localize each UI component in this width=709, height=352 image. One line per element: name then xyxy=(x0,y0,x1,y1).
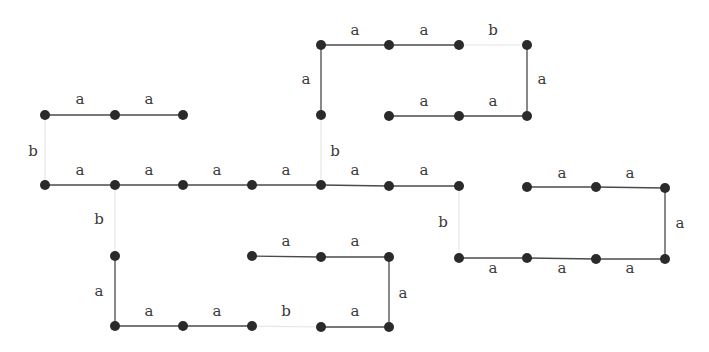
graph-node xyxy=(384,322,394,332)
graph-node xyxy=(110,180,120,190)
graph-node xyxy=(316,40,326,50)
edge-label: a xyxy=(351,302,360,320)
graph-node xyxy=(247,251,257,261)
edge-label: a xyxy=(351,21,360,39)
graph-node xyxy=(316,252,326,262)
graph-node xyxy=(660,254,670,264)
graph-node xyxy=(316,110,326,120)
graph-node xyxy=(454,253,464,263)
graph-node xyxy=(110,251,120,261)
graph-diagram: aaaabaaaabaaaaaabaabbaaaaaaaaaaba xyxy=(0,0,709,352)
graph-node xyxy=(384,252,394,262)
graph-node xyxy=(591,254,601,264)
edge-label: a xyxy=(282,161,291,179)
graph-node xyxy=(247,321,257,331)
edge-label: a xyxy=(213,302,222,320)
edge-label: a xyxy=(489,92,498,110)
graph-node xyxy=(316,322,326,332)
graph-node xyxy=(522,253,532,263)
edge-label: b xyxy=(330,142,340,160)
edge-label: a xyxy=(76,161,85,179)
edge-b xyxy=(252,326,321,327)
graph-node xyxy=(110,110,120,120)
edge-label: a xyxy=(558,164,567,182)
edge-label: a xyxy=(76,90,85,108)
edge-label: a xyxy=(145,161,154,179)
edge-label: a xyxy=(626,164,635,182)
graph-node xyxy=(40,180,50,190)
edge-label: b xyxy=(28,142,38,160)
graph-node xyxy=(316,180,326,190)
edge-label: a xyxy=(420,92,429,110)
graph-node xyxy=(40,110,50,120)
graph-node xyxy=(591,182,601,192)
graph-node xyxy=(522,111,532,121)
edge-label: a xyxy=(351,161,360,179)
edge-label: a xyxy=(489,259,498,277)
edge-a xyxy=(252,256,321,257)
graph-node xyxy=(384,181,394,191)
edge-label: a xyxy=(351,232,360,250)
edge-a xyxy=(596,187,665,188)
edge-label: a xyxy=(399,284,408,302)
edge-label: a xyxy=(676,214,685,232)
edge-label: b xyxy=(94,210,104,228)
edge-label: a xyxy=(213,161,222,179)
graph-node xyxy=(454,111,464,121)
graph-node xyxy=(247,180,257,190)
graph-node xyxy=(178,321,188,331)
edge-label: b xyxy=(488,21,498,39)
graph-svg: aaaabaaaabaaaaaabaabbaaaaaaaaaaba xyxy=(0,0,709,352)
edge-a xyxy=(321,185,389,186)
edge-label: b xyxy=(438,213,448,231)
graph-node xyxy=(454,181,464,191)
graph-node xyxy=(522,182,532,192)
edge-label: a xyxy=(558,259,567,277)
graph-node xyxy=(384,111,394,121)
edge-label: a xyxy=(538,70,547,88)
graph-node xyxy=(522,40,532,50)
graph-node xyxy=(384,40,394,50)
edge-label: a xyxy=(145,90,154,108)
edge-label: a xyxy=(145,302,154,320)
edge-label: a xyxy=(626,259,635,277)
edge-label: a xyxy=(282,232,291,250)
edges-layer xyxy=(45,45,665,327)
graph-node xyxy=(110,321,120,331)
edge-label: a xyxy=(302,70,311,88)
graph-node xyxy=(660,183,670,193)
edge-label: b xyxy=(281,302,291,320)
edge-label: a xyxy=(420,21,429,39)
labels-layer: aaaabaaaabaaaaaabaabbaaaaaaaaaaba xyxy=(28,21,684,320)
edge-label: a xyxy=(95,282,104,300)
graph-node xyxy=(178,110,188,120)
edge-label: a xyxy=(420,161,429,179)
graph-node xyxy=(454,40,464,50)
graph-node xyxy=(178,180,188,190)
